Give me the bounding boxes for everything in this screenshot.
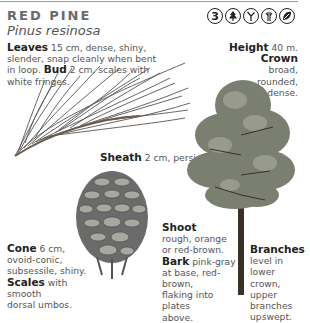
- shoot-bark-description: Shoot rough, orange or red-brown. Bark p…: [162, 222, 242, 323]
- height-term: Height: [229, 41, 269, 53]
- branches-line: branches: [250, 300, 310, 311]
- top-rule: [0, 1, 298, 2]
- bark-line: at base, red-brown,: [162, 267, 242, 289]
- zone-number: 3: [211, 10, 219, 23]
- cone-scales-description: Cone 6 cm, ovoid-conic, subsessile, shin…: [7, 243, 92, 310]
- leaves-term: Leaves: [7, 41, 48, 53]
- shoot-line: rough, orange: [162, 233, 242, 244]
- branches-description: Branches level in lower crown, upper bra…: [250, 244, 310, 322]
- crown-term: Crown: [261, 52, 298, 64]
- bark-term: Bark: [162, 255, 189, 267]
- latin-name: Pinus resinosa: [7, 23, 101, 38]
- branches-line: crown, upper: [250, 278, 310, 300]
- needle-bundle-icon: [243, 8, 259, 24]
- bark-line: above.: [162, 312, 242, 323]
- branches-line: level in lower: [250, 255, 310, 277]
- twig-icon: [261, 8, 277, 24]
- bark-line: flaking into plates: [162, 289, 242, 311]
- crown-line: broad,: [218, 64, 298, 75]
- identification-icons: 3: [207, 8, 295, 24]
- common-name: RED PINE: [7, 8, 91, 23]
- shoot-term: Shoot: [162, 221, 196, 233]
- scales-term: Scales: [7, 276, 45, 288]
- cone-text: 6 cm,: [37, 243, 66, 254]
- cone-line: ovoid-conic,: [7, 254, 92, 265]
- cone-term: Cone: [7, 242, 37, 254]
- zone-number-icon: 3: [207, 8, 223, 24]
- conifer-tree-icon: [225, 8, 241, 24]
- branches-term: Branches: [250, 243, 305, 255]
- sheath-term: Sheath: [100, 151, 142, 163]
- branches-line: upswept.: [250, 311, 310, 322]
- leaf-shape-icon: [279, 8, 295, 24]
- scales-line: dorsal umbos.: [7, 299, 92, 310]
- needle-branch-illustration: [10, 58, 195, 158]
- bark-text: pink-gray: [189, 256, 235, 267]
